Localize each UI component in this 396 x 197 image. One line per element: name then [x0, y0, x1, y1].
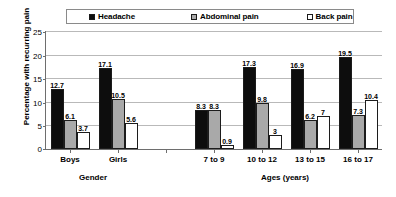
legend-item-back-pain: Back pain — [307, 12, 353, 21]
bar-10-to-12-abdominal-pain: 9.8 — [256, 103, 269, 149]
bar-girls-back-pain: 5.6 — [125, 123, 138, 149]
x-tick-mark — [70, 149, 71, 153]
x-category-label-boys: Boys — [46, 155, 94, 164]
ytick-label-10: 10 — [33, 98, 42, 107]
bar-boys-abdominal-pain: 6.1 — [64, 120, 77, 149]
bar-group-girls: 17.1 10.5 5.6 Girls — [94, 31, 142, 149]
bar-value-label: 8.3 — [209, 103, 219, 110]
bar-16-to-17-back-pain: 10.4 — [365, 100, 378, 149]
bar-value-label: 19.5 — [338, 50, 352, 57]
x-category-label-16-to-17: 16 to 17 — [334, 155, 382, 164]
bar-value-label: 6.1 — [65, 113, 75, 120]
bar-value-label: 0.9 — [222, 138, 232, 145]
bar-value-label: 3 — [273, 128, 277, 135]
bar-group-boys: 12.7 6.1 3.7 Boys — [46, 31, 94, 149]
bar-value-label: 12.7 — [50, 82, 64, 89]
gray-square-icon — [191, 14, 197, 20]
x-category-label-girls: Girls — [94, 155, 142, 164]
legend-label: Abdominal pain — [200, 12, 259, 21]
bar-group-10-to-12: 17.3 9.8 3 10 to 12 — [238, 31, 286, 149]
legend-label: Headache — [98, 12, 135, 21]
bar-girls-abdominal-pain: 10.5 — [112, 99, 125, 149]
bar-value-label: 10.5 — [111, 92, 125, 99]
bar-value-label: 7.3 — [353, 108, 363, 115]
bar-girls-headache: 17.1 — [99, 68, 112, 149]
x-tick-mark — [214, 149, 215, 153]
bar-13-to-15-headache: 16.9 — [291, 69, 304, 149]
white-square-icon — [307, 14, 313, 20]
ytick-label-25: 25 — [33, 28, 42, 37]
x-section-title-gender: Gender — [45, 173, 141, 182]
ytick-label-5: 5 — [38, 122, 42, 131]
black-square-icon — [89, 14, 95, 20]
x-tick-mark — [166, 149, 167, 153]
bar-13-to-15-back-pain: 7 — [317, 116, 330, 149]
legend-item-abdominal-pain: Abdominal pain — [191, 12, 259, 21]
x-category-label-10-to-12: 10 to 12 — [238, 155, 286, 164]
bar-16-to-17-headache: 19.5 — [339, 57, 352, 149]
bar-group-16-to-17: 19.5 7.3 10.4 16 to 17 — [334, 31, 382, 149]
ytick-mark — [43, 149, 46, 150]
chart-legend: Headache Abdominal pain Back pain — [66, 9, 354, 24]
legend-item-headache: Headache — [89, 12, 135, 21]
bar-value-label: 16.9 — [290, 62, 304, 69]
bar-value-label: 6.2 — [305, 113, 315, 120]
bar-value-label: 7 — [321, 109, 325, 116]
bar-10-to-12-back-pain: 3 — [269, 135, 282, 149]
x-section-title-ages: Ages (years) — [189, 173, 381, 182]
y-axis-title: Percentage with recurring pain — [22, 0, 31, 137]
bar-group-13-to-15: 16.9 6.2 7 13 to 15 — [286, 31, 334, 149]
bar-7-to-9-back-pain: 0.9 — [221, 145, 234, 149]
plot-area: 25 20 15 10 5 0 12.7 — [45, 31, 382, 150]
bar-value-label: 17.3 — [242, 60, 256, 67]
bar-value-label: 3.7 — [78, 125, 88, 132]
x-category-label-7-to-9: 7 to 9 — [190, 155, 238, 164]
bar-group-7-to-9: 8.3 8.3 0.9 7 to 9 — [190, 31, 238, 149]
bar-value-label: 10.4 — [364, 93, 378, 100]
ytick-label-0: 0 — [38, 145, 42, 154]
legend-label: Back pain — [316, 12, 353, 21]
bar-group-spacer — [142, 31, 190, 149]
bar-value-label: 5.6 — [126, 116, 136, 123]
bar-boys-headache: 12.7 — [51, 89, 64, 149]
bar-7-to-9-abdominal-pain: 8.3 — [208, 110, 221, 149]
bar-16-to-17-abdominal-pain: 7.3 — [352, 115, 365, 150]
bar-boys-back-pain: 3.7 — [77, 132, 90, 150]
bar-7-to-9-headache: 8.3 — [195, 110, 208, 149]
x-tick-mark — [262, 149, 263, 153]
bar-10-to-12-headache: 17.3 — [243, 67, 256, 149]
recurring-pain-bar-chart: Headache Abdominal pain Back pain Percen… — [0, 0, 396, 197]
ytick-label-15: 15 — [33, 75, 42, 84]
x-category-label-13-to-15: 13 to 15 — [286, 155, 334, 164]
bar-value-label: 9.8 — [257, 96, 267, 103]
ytick-label-20: 20 — [33, 51, 42, 60]
x-tick-mark — [118, 149, 119, 153]
bar-value-label: 17.1 — [98, 61, 112, 68]
x-tick-mark — [358, 149, 359, 153]
bar-13-to-15-abdominal-pain: 6.2 — [304, 120, 317, 149]
bar-value-label: 8.3 — [196, 103, 206, 110]
x-tick-mark — [310, 149, 311, 153]
